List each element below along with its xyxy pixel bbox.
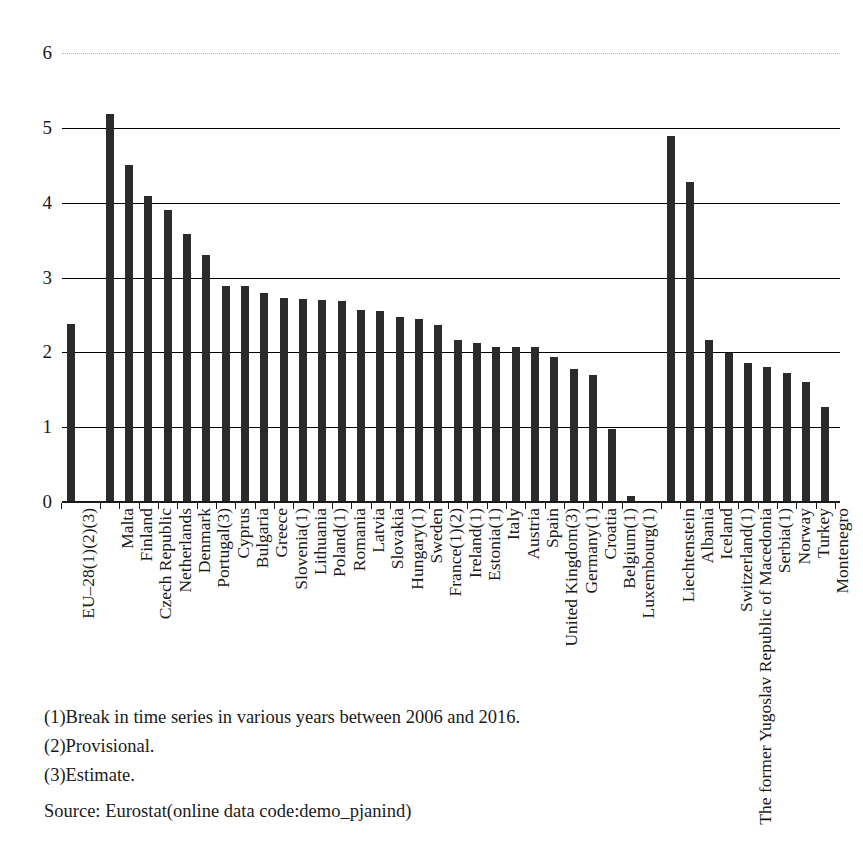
x-tick-label: Bulgaria bbox=[250, 508, 268, 568]
bar-series bbox=[62, 53, 840, 502]
source-note: Source: Eurostat(online data code:demo_p… bbox=[44, 797, 411, 826]
x-tick-label: Montenegro bbox=[830, 508, 848, 594]
bar bbox=[396, 317, 404, 502]
x-tick-label: Germany(1) bbox=[579, 508, 597, 594]
bar bbox=[783, 373, 791, 502]
bar bbox=[338, 301, 346, 502]
bar bbox=[763, 367, 771, 502]
x-tick-label: Sweden bbox=[424, 508, 442, 563]
x-tick-label: Italy bbox=[501, 508, 519, 540]
bar bbox=[802, 382, 810, 502]
x-tick-label: Romania bbox=[347, 508, 365, 571]
x-tick-label: Portugal(3) bbox=[211, 508, 229, 588]
bar bbox=[705, 340, 713, 502]
y-tick-label-6: 6 bbox=[24, 43, 52, 62]
x-tick-label: Latvia bbox=[366, 508, 384, 553]
x-tick-label: Denmark bbox=[192, 508, 210, 573]
bar bbox=[357, 310, 365, 502]
bar bbox=[318, 300, 326, 502]
x-tick-label: Austria bbox=[521, 508, 539, 560]
footnote-3: (3)Estimate. bbox=[44, 761, 644, 790]
bar bbox=[183, 234, 191, 502]
plot-area bbox=[62, 53, 840, 502]
bar bbox=[667, 136, 675, 502]
x-tick-label: Liechtenstein bbox=[676, 508, 694, 602]
x-tick-label: Belgium(1) bbox=[617, 508, 635, 589]
x-tick-label: France(1)(2) bbox=[443, 508, 461, 596]
bar bbox=[454, 340, 462, 502]
x-tick-label: Ireland(1) bbox=[463, 508, 481, 578]
bar bbox=[725, 353, 733, 502]
bar bbox=[744, 363, 752, 502]
x-tick-label-text: EU–28(1)(2)(3) bbox=[80, 508, 98, 619]
bar bbox=[492, 347, 500, 502]
bar bbox=[222, 286, 230, 502]
chart-figure: 0123456 EU–28(1)(2)(3)MaltaFinlandCzech … bbox=[0, 0, 863, 868]
y-tick-label-4: 4 bbox=[24, 193, 52, 212]
x-tick-label: Norway bbox=[792, 508, 810, 564]
x-tick-label: Spain bbox=[540, 508, 558, 548]
x-tick-label: Hungary(1) bbox=[405, 508, 423, 590]
x-tick-label: Serbia(1) bbox=[772, 508, 790, 573]
footnote-2: (2)Provisional. bbox=[44, 732, 644, 761]
x-tick-label: EU–28(1)(2)(3) bbox=[76, 508, 94, 619]
x-tick-label: Slovenia(1) bbox=[289, 508, 307, 590]
x-tick-label: Iceland bbox=[714, 508, 732, 560]
bar bbox=[202, 255, 210, 502]
bar bbox=[376, 311, 384, 502]
x-tick-label: United Kingdom(3) bbox=[559, 508, 577, 647]
bar bbox=[144, 196, 152, 502]
x-tick-label: Malta bbox=[115, 508, 133, 549]
x-tick-label: Croatia bbox=[598, 508, 616, 560]
x-tick-label: Netherlands bbox=[173, 508, 191, 593]
bar bbox=[589, 375, 597, 502]
bar bbox=[67, 324, 75, 502]
x-tick-label: Poland(1) bbox=[327, 508, 345, 577]
x-axis bbox=[62, 501, 840, 503]
x-tick-label-text: Luxembourg(1) bbox=[640, 508, 658, 619]
bar bbox=[280, 298, 288, 502]
bar bbox=[550, 357, 558, 502]
footnotes: (1)Break in time series in various years… bbox=[44, 703, 644, 790]
bar bbox=[531, 347, 539, 502]
y-tick-label-3: 3 bbox=[24, 268, 52, 287]
x-tick-label: Czech Republic bbox=[153, 508, 171, 619]
y-tick-label-2: 2 bbox=[24, 342, 52, 361]
x-tick-label: The former Yugoslav Republic of Macedoni… bbox=[753, 508, 771, 825]
y-tick-label-0: 0 bbox=[24, 492, 52, 511]
bar bbox=[473, 343, 481, 502]
bar bbox=[260, 293, 268, 502]
x-tick-label: Switzerland(1) bbox=[734, 508, 752, 612]
bar bbox=[434, 325, 442, 502]
bar bbox=[241, 286, 249, 502]
y-tick-label-1: 1 bbox=[24, 417, 52, 436]
bar bbox=[299, 299, 307, 502]
bar bbox=[164, 210, 172, 502]
x-tick-label: Cyprus bbox=[231, 508, 249, 559]
x-tick-label: Turkey bbox=[811, 508, 829, 558]
bar bbox=[570, 369, 578, 502]
x-tick-label: Lithuania bbox=[308, 508, 326, 575]
footnote-1: (1)Break in time series in various years… bbox=[44, 703, 644, 732]
x-tick-label: Slovakia bbox=[385, 508, 403, 569]
x-tick-label: Estonia(1) bbox=[482, 508, 500, 581]
bar bbox=[821, 407, 829, 502]
bar bbox=[125, 165, 133, 502]
bar bbox=[686, 182, 694, 502]
bar bbox=[415, 319, 423, 502]
bar bbox=[608, 429, 616, 502]
x-tick-label: Finland bbox=[134, 508, 152, 561]
x-tick-label-text: Montenegro bbox=[834, 508, 852, 594]
x-tick-label: Luxembourg(1) bbox=[636, 508, 654, 619]
bar bbox=[106, 114, 114, 502]
bar bbox=[512, 347, 520, 502]
y-tick-label-5: 5 bbox=[24, 118, 52, 137]
x-tick-label: Greece bbox=[269, 508, 287, 558]
x-tick-label: Albania bbox=[695, 508, 713, 563]
